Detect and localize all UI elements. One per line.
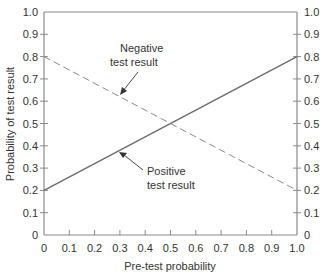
y-tick-label: 0.8 (23, 51, 38, 63)
y-tick-label: 0.9 (23, 28, 38, 40)
negative-annotation-line2: test result (110, 56, 158, 68)
y-tick-label: 0.3 (23, 162, 38, 174)
positive-annotation-line1: Positive (147, 165, 186, 177)
y-tick-label: 0 (32, 229, 38, 241)
x-tick-label: 0.7 (213, 242, 228, 254)
x-axis-title: Pre-test probability (124, 260, 216, 272)
y-tick-label: 1.0 (23, 6, 38, 18)
negative-arrow-icon (120, 72, 138, 95)
right-y-tick-label: 0.5 (304, 118, 319, 130)
right-y-tick-label: 0.3 (304, 162, 319, 174)
tick-labels: 00.10.20.30.40.50.60.70.80.91.000.10.20.… (23, 6, 320, 254)
y-tick-label: 0.6 (23, 95, 38, 107)
right-y-tick-label: 0 (304, 229, 310, 241)
x-tick-label: 0.6 (188, 242, 203, 254)
x-tick-label: 0.5 (163, 242, 178, 254)
chart: 00.10.20.30.40.50.60.70.80.91.000.10.20.… (0, 0, 325, 277)
right-y-tick-label: 0.9 (304, 28, 319, 40)
x-tick-label: 0.8 (239, 242, 254, 254)
x-tick-label: 1.0 (289, 242, 304, 254)
negative-annotation-line1: Negative (120, 42, 163, 54)
right-y-tick-label: 0.6 (304, 95, 319, 107)
x-tick-label: 0.3 (112, 242, 127, 254)
y-axis-title: Probability of test result (4, 67, 16, 181)
right-y-tick-label: 0.8 (304, 51, 319, 63)
x-tick-label: 0 (41, 242, 47, 254)
x-tick-label: 0.1 (62, 242, 77, 254)
x-tick-label: 0.4 (138, 242, 153, 254)
right-y-tick-label: 0.7 (304, 73, 319, 85)
right-y-tick-label: 0.2 (304, 184, 319, 196)
y-tick-label: 0.7 (23, 73, 38, 85)
positive-arrow-icon (119, 152, 143, 170)
y-tick-label: 0.5 (23, 118, 38, 130)
right-y-tick-label: 1.0 (304, 6, 319, 18)
x-tick-label: 0.9 (264, 242, 279, 254)
y-tick-label: 0.2 (23, 184, 38, 196)
right-y-tick-label: 0.1 (304, 207, 319, 219)
x-tick-label: 0.2 (87, 242, 102, 254)
y-tick-label: 0.4 (23, 140, 38, 152)
y-tick-label: 0.1 (23, 207, 38, 219)
right-y-tick-label: 0.4 (304, 140, 319, 152)
axis-ticks (40, 34, 301, 235)
positive-annotation-line2: test result (147, 179, 195, 191)
